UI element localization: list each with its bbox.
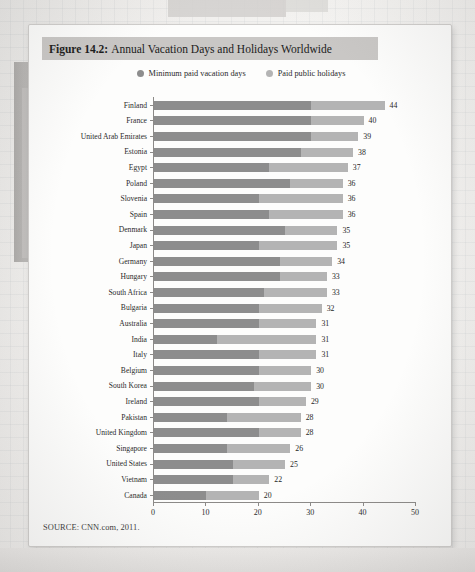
bar-segment-vacation-days [154, 288, 264, 297]
bar-value-label: 36 [348, 179, 356, 188]
bar-row: Australia31 [29, 316, 453, 332]
x-axis-tick-mark [205, 502, 206, 506]
bar-row: United Kingdom28 [29, 425, 453, 441]
scanned-page-root: Figure 14.2: Annual Vacation Days and Ho… [0, 0, 475, 572]
stacked-bar [154, 194, 343, 203]
source-note: SOURCE: CNN.com, 2011. [43, 523, 140, 532]
bar-value-label: 31 [321, 350, 329, 359]
bar-segment-public-holidays [311, 101, 384, 110]
bar-segment-public-holidays [206, 491, 258, 500]
bar-segment-vacation-days [154, 210, 269, 219]
bar-segment-public-holidays [301, 148, 353, 157]
bar-category-label: Australia [29, 320, 151, 328]
stacked-bar [154, 335, 316, 344]
bar-segment-vacation-days [154, 475, 233, 484]
figure-title-bar: Figure 14.2: Annual Vacation Days and Ho… [42, 37, 378, 60]
bar-category-label: Japan [29, 242, 151, 250]
stacked-bar [154, 475, 269, 484]
bar-category-label: Singapore [29, 445, 151, 453]
circle-swatch-icon [137, 70, 144, 77]
bar-value-label: 33 [332, 288, 340, 297]
stacked-bar [154, 350, 316, 359]
bar-row: Bulgaria32 [29, 300, 453, 316]
bar-segment-public-holidays [280, 257, 332, 266]
bar-segment-vacation-days [154, 257, 280, 266]
bar-category-label: United States [29, 460, 151, 468]
bar-segment-public-holidays [259, 350, 317, 359]
stacked-bar [154, 491, 259, 500]
bar-row: Poland36 [29, 176, 453, 192]
bar-segment-public-holidays [311, 132, 358, 141]
bar-segment-vacation-days [154, 319, 259, 328]
bar-segment-vacation-days [154, 350, 259, 359]
figure-page: Figure 14.2: Annual Vacation Days and Ho… [28, 24, 452, 547]
bar-segment-public-holidays [233, 460, 285, 469]
bar-segment-vacation-days [154, 460, 233, 469]
bar-row: Italy31 [29, 347, 453, 363]
stacked-bar [154, 132, 358, 141]
legend-label-vacation: Minimum paid vacation days [149, 69, 246, 78]
bar-segment-vacation-days [154, 335, 217, 344]
chart-plot-area: Finland44France40United Arab Emirates39E… [29, 97, 453, 517]
bar-segment-vacation-days [154, 444, 227, 453]
x-axis-tick-label: 20 [254, 508, 262, 517]
bar-value-label: 36 [348, 194, 356, 203]
bar-row: Belgium30 [29, 363, 453, 379]
bar-segment-vacation-days [154, 272, 280, 281]
bar-value-label: 30 [316, 382, 324, 391]
bar-segment-public-holidays [254, 382, 312, 391]
stacked-bar [154, 210, 343, 219]
bar-value-label: 25 [290, 460, 298, 469]
figure-number: Figure 14.2: [49, 43, 108, 55]
bar-category-label: Egypt [29, 164, 151, 172]
circle-swatch-icon [266, 70, 273, 77]
bar-segment-public-holidays [259, 304, 322, 313]
stacked-bar [154, 382, 311, 391]
stacked-bar [154, 101, 385, 110]
stacked-bar [154, 413, 301, 422]
stacked-bar [154, 366, 311, 375]
bar-row: Singapore26 [29, 441, 453, 457]
bar-segment-vacation-days [154, 428, 259, 437]
stacked-bar [154, 148, 353, 157]
x-axis-tick-label: 50 [411, 508, 419, 517]
x-axis-tick-label: 0 [151, 508, 155, 517]
stacked-bar [154, 179, 343, 188]
bar-value-label: 31 [321, 319, 329, 328]
bar-segment-vacation-days [154, 148, 301, 157]
bar-row: Egypt37 [29, 160, 453, 176]
stacked-bar [154, 272, 327, 281]
bar-segment-vacation-days [154, 163, 269, 172]
bar-segment-vacation-days [154, 413, 227, 422]
bar-row: United States25 [29, 456, 453, 472]
bar-category-label: South Africa [29, 289, 151, 297]
x-axis-tick-mark [258, 502, 259, 506]
bar-segment-public-holidays [227, 413, 300, 422]
bar-row: Hungary33 [29, 269, 453, 285]
bar-segment-public-holidays [290, 179, 342, 188]
bar-category-label: India [29, 336, 151, 344]
bar-segment-public-holidays [259, 241, 338, 250]
bar-value-label: 36 [348, 210, 356, 219]
bar-segment-vacation-days [154, 101, 311, 110]
bar-value-label: 37 [353, 163, 361, 172]
bar-category-label: Italy [29, 351, 151, 359]
bar-row: Denmark35 [29, 222, 453, 238]
stacked-bar [154, 257, 332, 266]
stacked-bar [154, 319, 316, 328]
bar-segment-vacation-days [154, 366, 259, 375]
bar-category-label: Finland [29, 102, 151, 110]
bar-value-label: 22 [274, 475, 282, 484]
bar-segment-vacation-days [154, 226, 285, 235]
bar-value-label: 26 [295, 444, 303, 453]
bar-category-label: Germany [29, 258, 151, 266]
bar-category-label: Pakistan [29, 414, 151, 422]
stacked-bar [154, 428, 301, 437]
bar-row: France40 [29, 113, 453, 129]
stacked-bar [154, 226, 337, 235]
bar-segment-vacation-days [154, 382, 254, 391]
bar-row: Ireland29 [29, 394, 453, 410]
bar-segment-public-holidays [269, 163, 348, 172]
bar-category-label: Poland [29, 180, 151, 188]
bar-value-label: 20 [264, 491, 272, 500]
